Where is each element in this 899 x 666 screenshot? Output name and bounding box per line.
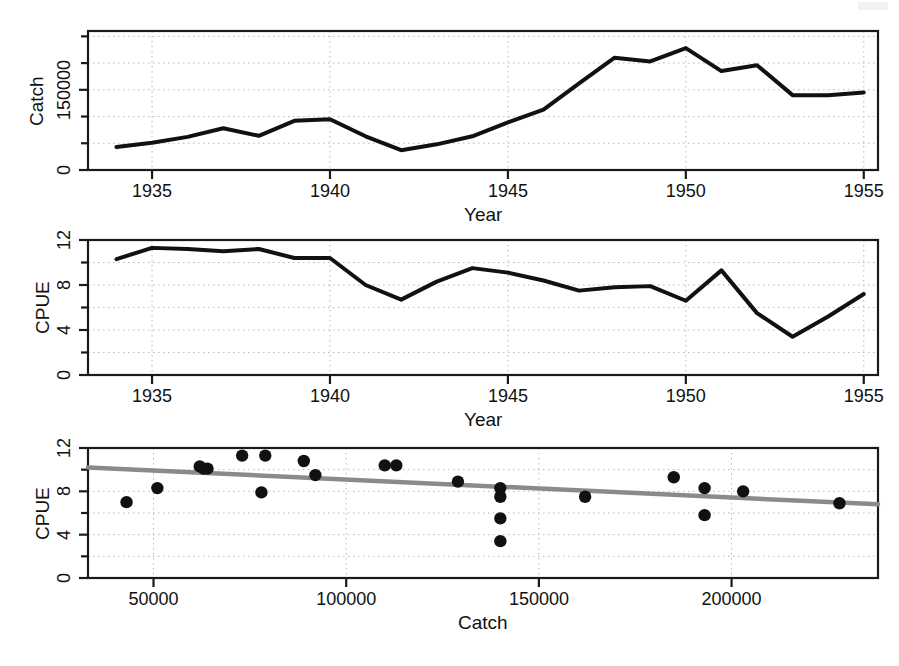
data-point xyxy=(309,469,321,481)
data-line xyxy=(116,248,863,337)
panel-middle xyxy=(79,240,878,384)
plot-canvas xyxy=(0,0,899,666)
data-point xyxy=(197,462,209,474)
y-tick-label: 0 xyxy=(54,165,75,175)
y-tick-label: 8 xyxy=(54,486,75,496)
y-tick-label: 12 xyxy=(54,438,75,458)
x-tick-label: 1950 xyxy=(666,386,706,407)
y-axis-title: CPUE xyxy=(32,281,54,334)
x-tick-label: 1955 xyxy=(844,386,884,407)
panel-top xyxy=(79,31,878,179)
y-tick-label: 0 xyxy=(54,370,75,380)
x-tick-label: 100000 xyxy=(316,589,376,610)
x-tick-label: 1955 xyxy=(844,181,884,202)
data-point xyxy=(698,482,710,494)
fisheries-figure: 015000019351940194519501955YearCatch0481… xyxy=(0,0,899,666)
x-tick-label: 1940 xyxy=(310,181,350,202)
plot-frame xyxy=(88,31,878,170)
y-tick-label: 150000 xyxy=(54,60,75,120)
data-point xyxy=(120,496,132,508)
data-point xyxy=(151,482,163,494)
x-tick-label: 1945 xyxy=(488,386,528,407)
data-point xyxy=(668,471,680,483)
y-tick-label: 4 xyxy=(54,530,75,540)
data-point xyxy=(698,509,710,521)
data-point xyxy=(390,459,402,471)
panel-bottom xyxy=(79,448,878,587)
data-point xyxy=(236,449,248,461)
data-point xyxy=(255,486,267,498)
y-axis-title: Catch xyxy=(26,76,48,126)
data-point xyxy=(494,491,506,503)
y-tick-label: 4 xyxy=(54,325,75,335)
data-point xyxy=(579,491,591,503)
data-point xyxy=(452,475,464,487)
y-axis-title: CPUE xyxy=(32,487,54,540)
data-point xyxy=(259,449,271,461)
x-tick-label: 1950 xyxy=(666,181,706,202)
y-tick-label: 8 xyxy=(54,280,75,290)
data-point xyxy=(379,459,391,471)
data-point xyxy=(494,512,506,524)
x-tick-label: 150000 xyxy=(509,589,569,610)
y-tick-label: 0 xyxy=(54,573,75,583)
x-tick-label: 50000 xyxy=(129,589,179,610)
x-tick-label: 200000 xyxy=(702,589,762,610)
x-tick-label: 1945 xyxy=(488,181,528,202)
data-point xyxy=(833,497,845,509)
scan-artifact xyxy=(858,2,888,10)
x-tick-label: 1935 xyxy=(132,386,172,407)
x-axis-title: Year xyxy=(464,409,502,431)
x-tick-label: 1940 xyxy=(310,386,350,407)
x-axis-title: Catch xyxy=(458,612,508,634)
data-point xyxy=(737,485,749,497)
y-tick-label: 12 xyxy=(54,230,75,250)
x-tick-label: 1935 xyxy=(132,181,172,202)
data-point xyxy=(494,535,506,547)
data-point xyxy=(298,455,310,467)
x-axis-title: Year xyxy=(464,204,502,226)
